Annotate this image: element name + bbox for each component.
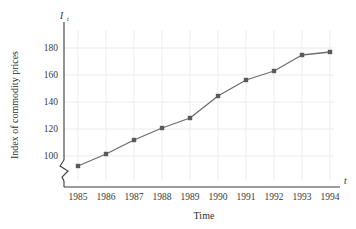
xtick-label-1990: 1990: [209, 192, 228, 202]
xtick-label-1985: 1985: [69, 192, 88, 202]
ytick-label-160: 160: [44, 70, 59, 80]
xtick-label-1987: 1987: [125, 192, 144, 202]
chart-svg: 180 160 140 120 100 1985 1986 1987 1988 …: [0, 0, 356, 229]
ytick-label-120: 120: [44, 124, 59, 134]
x-axis-title: Time: [194, 210, 215, 221]
y-axis-title: Index of commodity prices: [9, 51, 20, 159]
data-point-1992: [272, 69, 276, 73]
ytick-label-140: 140: [44, 97, 59, 107]
data-point-1991: [244, 78, 248, 82]
data-point-1985: [76, 164, 80, 168]
commodity-price-chart: 180 160 140 120 100 1985 1986 1987 1988 …: [0, 0, 356, 229]
data-point-1987: [132, 138, 136, 142]
x-axis-symbol: t: [344, 176, 347, 186]
xtick-label-1992: 1992: [265, 192, 284, 202]
xtick-label-1994: 1994: [321, 192, 340, 202]
ytick-label-180: 180: [44, 43, 59, 53]
data-point-1988: [160, 126, 164, 130]
ytick-label-100: 100: [44, 151, 59, 161]
data-point-1994: [328, 50, 332, 54]
xtick-label-1991: 1991: [237, 192, 256, 202]
xtick-label-1989: 1989: [181, 192, 200, 202]
data-point-1990: [216, 94, 220, 98]
xtick-label-1988: 1988: [153, 192, 172, 202]
data-point-1989: [188, 116, 192, 120]
data-point-1993: [300, 53, 304, 57]
y-axis-symbol-subscript: t: [67, 15, 69, 22]
data-point-1986: [104, 152, 108, 156]
xtick-label-1993: 1993: [293, 192, 312, 202]
xtick-label-1986: 1986: [97, 192, 116, 202]
